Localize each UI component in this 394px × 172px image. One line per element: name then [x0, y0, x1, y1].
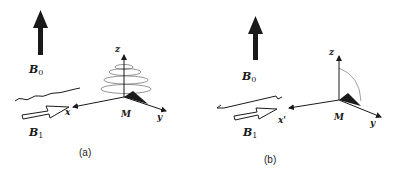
y-label: y [156, 112, 163, 122]
panel-b: B0 B1 z x' y M (b) [217, 16, 381, 165]
b1-label: B1 [242, 126, 257, 140]
caption-b: (b) [264, 154, 276, 165]
y-axis [339, 100, 381, 117]
x-axis [73, 97, 124, 107]
rf-field-line-icon [217, 96, 282, 108]
b1-arrow-icon [234, 108, 277, 120]
nmr-diagram: B0 B1 z x y M (a) [0, 0, 394, 172]
x-prime-axis [289, 100, 339, 108]
x-prime-label: x' [277, 115, 286, 125]
z-label: z [328, 47, 335, 57]
z-label: z [114, 44, 121, 54]
b0-label: B0 [28, 63, 43, 77]
b1-label: B1 [28, 126, 43, 140]
b0-arrow-icon [33, 10, 48, 55]
caption-a: (a) [79, 147, 91, 158]
b1-arrow-icon [22, 106, 69, 119]
y-label: y [369, 118, 376, 128]
b0-arrow-icon [248, 16, 263, 60]
m-label: M [120, 109, 132, 119]
precession-spiral-icon [101, 65, 151, 94]
m-label: M [333, 112, 345, 122]
b0-label: B0 [241, 70, 256, 84]
rf-wave-icon [15, 88, 80, 101]
panel-a: B0 B1 z x y M (a) [15, 10, 166, 158]
x-label: x [64, 107, 71, 117]
